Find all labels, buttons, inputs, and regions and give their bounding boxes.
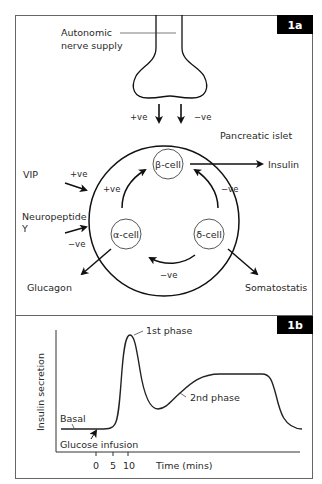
second-phase-leader [180,393,186,397]
alpha-to-beta-label: +ve [103,184,120,194]
basal-leader [72,424,74,428]
glucose-infusion-label: Glucose infusion [60,439,138,450]
nerve-terminal [133,15,206,98]
nerve-label-line1: Autonomic [61,27,112,38]
panel-1b-border [16,316,313,479]
tick-label-5: 5 [110,460,116,471]
x-axis-label: Time (mins) [155,460,213,471]
panel-1b-tag: 1b [287,319,303,332]
nerve-label-line2: nerve supply [61,40,123,51]
islet-label: Pancreatic islet [220,130,292,141]
tick-label-10: 10 [123,460,135,471]
vip-label: VIP [23,169,38,180]
alpha-cell-label: α-cell [113,229,139,240]
nerve-negative-label: −ve [194,112,211,122]
first-phase-leader [134,331,143,335]
beta-cell-label: β-cell [155,159,181,170]
glucagon-label: Glucagon [27,282,72,293]
basal-label: Basal [60,413,86,424]
y-axis-label: Insulin secretion [35,353,46,431]
delta-to-alpha-label: −ve [160,270,177,280]
panel-1a: 1a Autonomic nerve supply +ve −ve Pancre… [16,15,314,316]
glucose-infusion-arrow [91,431,96,439]
npy-label-line1: Neuropeptide [22,211,87,222]
panel-1a-tag: 1a [287,19,302,32]
first-phase-label: 1st phase [146,325,193,336]
figure: 1a Autonomic nerve supply +ve −ve Pancre… [0,0,322,484]
npy-arrow [65,227,86,233]
delta-cell-label: δ-cell [196,229,222,240]
vip-arrow [65,183,86,190]
alpha-to-beta-arrow [122,170,145,208]
delta-to-beta-arrow [195,170,218,208]
somatostatis-label: Somatostatis [245,282,307,293]
insulin-label: Insulin [268,159,299,170]
tick-label-0: 0 [93,460,99,471]
nerve-positive-label: +ve [130,112,147,122]
npy-effect-label: −ve [68,239,85,249]
panel-1b: 1b 0 5 10 Time (mins) Insulin secretion … [16,316,314,479]
npy-label-line2: Y [21,223,28,234]
insulin-secretion-curve [61,335,302,429]
delta-to-beta-label: −ve [221,184,238,194]
vip-effect-label: +ve [70,169,87,179]
delta-to-alpha-arrow [150,255,195,263]
somatostatis-arrow [228,249,257,274]
second-phase-label: 2nd phase [190,392,240,403]
